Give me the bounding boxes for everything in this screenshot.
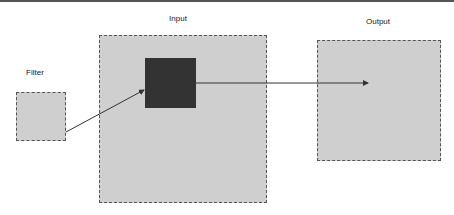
arrows-layer	[0, 0, 454, 215]
filter-to-input-arrow	[66, 90, 144, 132]
